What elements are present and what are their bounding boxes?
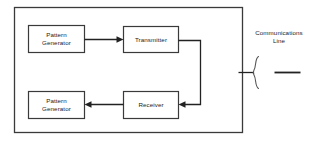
receiver-box bbox=[124, 92, 179, 119]
block-diagram: Pattern Generator Transmitter Receiver P… bbox=[0, 0, 312, 144]
connector-transmitter-to-receiver bbox=[179, 41, 201, 108]
connector-receiver-to-patterngen bbox=[85, 101, 124, 107]
connector-patterngen-to-transmitter bbox=[85, 36, 124, 42]
pattern-generator-tx-box bbox=[29, 26, 85, 53]
transmitter-box bbox=[124, 27, 179, 53]
pattern-generator-rx-box bbox=[29, 92, 85, 119]
comm-line-brace-icon bbox=[253, 57, 258, 89]
diagram-canvas bbox=[0, 0, 312, 144]
